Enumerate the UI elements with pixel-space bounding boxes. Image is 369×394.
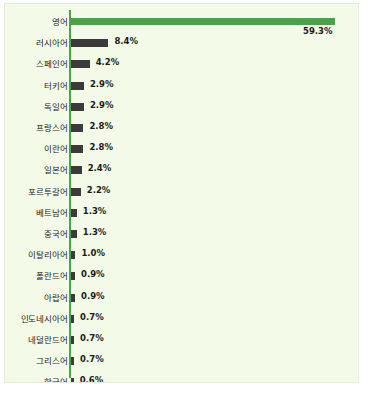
bar-chart-plot-area: 영어59.3%러시아어8.4%스페인어4.2%터키어2.9%독일어2.9%프랑스… [5,4,359,383]
bar-category-label: 일본어 [4,163,68,175]
bar-standard [71,294,75,302]
bar-category-label: 스페인어 [4,57,68,69]
bar-category-label: 터키어 [4,79,68,91]
bar-row: 포르투갈어2.2% [5,181,359,203]
bar-category-label: 러시아어 [4,36,68,48]
bar-value-label: 2.4% [88,163,112,173]
bar-row: 스페인어4.2% [5,53,359,75]
bar-value-label: 0.7% [80,354,104,364]
bar-value-label: 2.9% [90,79,114,89]
bar-value-label: 1.0% [81,248,105,258]
bar-standard [71,39,108,47]
bar-category-label: 독일어 [4,100,68,112]
bar-row: 일본어2.4% [5,159,359,181]
bar-value-label: 0.9% [81,269,105,279]
bar-row: 아랍어0.9% [5,287,359,309]
bar-standard [71,82,84,90]
bar-category-label: 그리스어 [4,354,68,366]
bar-value-label: 0.7% [80,333,104,343]
bar-value-label: 4.2% [96,57,120,67]
bar-row: 폴란드어0.9% [5,265,359,287]
bar-standard [71,188,81,196]
bar-category-label: 인도네시아어 [4,312,68,324]
bar-row: 한국어0.6% [5,371,359,383]
bar-category-label: 네덜란드어 [4,333,68,345]
bar-category-label: 프랑스어 [4,121,68,133]
bar-value-label: 0.9% [81,291,105,301]
bar-category-label: 중국어 [4,227,68,239]
bar-row: 영어59.3% [5,11,359,33]
bar-category-label: 영어 [4,15,68,27]
bar-value-label: 0.7% [80,312,104,322]
bar-standard [71,378,74,383]
bar-standard [71,230,77,238]
bar-highlighted [71,18,335,25]
bar-value-label: 1.3% [83,206,107,216]
bar-row: 독일어2.9% [5,96,359,118]
bar-value-label: 2.9% [90,100,114,110]
bar-standard [71,272,75,280]
bar-value-label: 2.2% [87,185,111,195]
bar-standard [71,251,75,259]
bar-category-label: 이탈리아어 [4,248,68,260]
bar-category-label: 포르투갈어 [4,185,68,197]
bar-value-label: 2.8% [89,142,113,152]
bar-standard [71,124,83,132]
bar-standard [71,103,84,111]
bar-row: 중국어1.3% [5,223,359,245]
bar-row: 이란어2.8% [5,138,359,160]
bar-standard [71,209,77,217]
bar-value-label: 0.6% [80,375,104,383]
bar-row: 그리스어0.7% [5,350,359,372]
bar-value-label: 2.8% [89,121,113,131]
bar-row: 이탈리아어1.0% [5,244,359,266]
bar-category-label: 이란어 [4,142,68,154]
bar-standard [71,145,83,153]
bar-row: 네덜란드어0.7% [5,329,359,351]
bar-standard [71,315,74,323]
bar-row: 러시아어8.4% [5,32,359,54]
bar-row: 베트남어1.3% [5,202,359,224]
bar-value-label: 1.3% [83,227,107,237]
bar-row: 터키어2.9% [5,75,359,97]
bar-category-label: 아랍어 [4,291,68,303]
bar-standard [71,336,74,344]
bar-category-label: 한국어 [4,375,68,383]
bar-standard [71,357,74,365]
bar-standard [71,60,90,68]
bar-row: 프랑스어2.8% [5,117,359,139]
bar-standard [71,166,82,174]
bar-category-label: 폴란드어 [4,269,68,281]
bar-category-label: 베트남어 [4,206,68,218]
chart-panel: 영어59.3%러시아어8.4%스페인어4.2%터키어2.9%독일어2.9%프랑스… [4,3,359,383]
bar-value-label: 8.4% [114,36,138,46]
bar-row: 인도네시아어0.7% [5,308,359,330]
